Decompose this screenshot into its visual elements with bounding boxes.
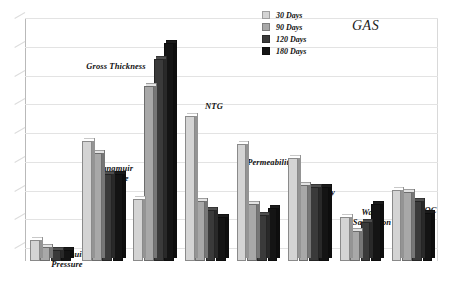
bar-top-face	[166, 40, 176, 43]
bar-top-face	[208, 207, 218, 210]
bar-top-face	[321, 184, 331, 187]
bar-side-face	[102, 150, 105, 258]
bar[interactable]	[288, 158, 298, 262]
bar-side-face	[123, 171, 126, 258]
category-label-ntg: NTG	[194, 102, 234, 112]
bar[interactable]	[237, 144, 247, 261]
bar-side-face	[370, 219, 373, 258]
bar-top-face	[115, 171, 125, 174]
legend-swatch-30-days	[262, 11, 270, 19]
bar-side-face	[360, 228, 363, 258]
legend-label-120-days: 120 Days	[276, 35, 306, 44]
legend-item-120-days[interactable]: 120 Days	[262, 33, 338, 45]
bar-top-face	[363, 219, 373, 222]
bar-side-face	[143, 196, 146, 258]
bar-group	[237, 31, 278, 261]
bar-side-face	[174, 40, 177, 259]
legend-label-90-days: 90 Days	[276, 23, 302, 32]
bar-top-face	[270, 205, 280, 208]
bar-top-face	[394, 187, 404, 190]
bar-side-face	[298, 155, 301, 259]
bar-side-face	[205, 198, 208, 258]
bar-side-face	[195, 113, 198, 258]
bar-face	[340, 217, 350, 261]
bar-top-face	[373, 201, 383, 204]
bar-side-face	[277, 205, 280, 258]
bar-side-face	[412, 189, 415, 258]
bar-side-face	[319, 184, 322, 258]
bar-top-face	[414, 198, 424, 201]
bar-side-face	[257, 201, 260, 259]
bar-top-face	[42, 244, 52, 247]
bar-side-face	[154, 83, 157, 258]
bar[interactable]	[185, 116, 195, 261]
bar[interactable]	[30, 240, 40, 261]
bar[interactable]	[392, 190, 402, 261]
bar-group	[288, 31, 329, 261]
bar-side-face	[246, 141, 249, 258]
bar-face	[392, 190, 402, 261]
bar-top-face	[135, 196, 145, 199]
bar-top-face	[32, 237, 42, 240]
legend-swatch-90-days	[262, 23, 270, 31]
bar-top-face	[218, 214, 228, 217]
bar-top-face	[311, 184, 321, 187]
bar-top-face	[342, 214, 352, 217]
bar-side-face	[164, 56, 167, 258]
bar-top-face	[404, 189, 414, 192]
plot-area: Langmuir PressureLangmuir VolumeGross Th…	[14, 18, 438, 274]
bar-side-face	[92, 138, 95, 258]
legend-item-30-days[interactable]: 30 Days	[262, 9, 338, 21]
bar-top-face	[156, 56, 166, 59]
legend-label-30-days: 30 Days	[276, 11, 302, 20]
bar-face	[133, 199, 143, 261]
bar-top-face	[63, 247, 73, 250]
bar-top-face	[146, 83, 156, 86]
bar-side-face	[215, 207, 218, 258]
bar-top-face	[301, 182, 311, 185]
bar-side-face	[40, 237, 43, 258]
bar-group	[340, 31, 381, 261]
legend-label-180-days: 180 Days	[276, 47, 306, 56]
bar[interactable]	[340, 217, 350, 261]
bar-top-face	[352, 228, 362, 231]
bar-top-face	[249, 201, 259, 204]
chart-title: GAS	[352, 18, 379, 34]
bar-side-face	[112, 171, 115, 258]
bar-top-face	[259, 212, 269, 215]
bar-side-face	[329, 184, 332, 258]
bar-face	[185, 116, 195, 261]
bar-top-face	[53, 247, 63, 250]
bar-top-face	[290, 155, 300, 158]
bar-top-face	[84, 138, 94, 141]
bar-top-face	[197, 198, 207, 201]
bar-side-face	[267, 212, 270, 258]
category-label-gross-thickness: Gross Thickness	[70, 62, 162, 72]
bar-face	[288, 158, 298, 262]
bar-group	[30, 31, 71, 261]
bar-group	[392, 31, 433, 261]
bar-face	[237, 144, 247, 261]
bar-top-face	[425, 210, 435, 213]
bar-top-face	[187, 113, 197, 116]
bar-top-face	[94, 150, 104, 153]
bar-side-face	[432, 210, 435, 258]
legend-item-180-days[interactable]: 180 Days	[262, 45, 338, 57]
bar-top-face	[104, 171, 114, 174]
bar-group	[185, 31, 226, 261]
bar-side-face	[308, 182, 311, 258]
bar-face	[30, 240, 40, 261]
legend-swatch-180-days	[262, 47, 270, 55]
legend-swatch-120-days	[262, 35, 270, 43]
bar[interactable]	[133, 199, 143, 261]
legend: 30 Days 90 Days 120 Days 180 Days	[262, 9, 338, 57]
bar-side-face	[226, 214, 229, 258]
bar[interactable]	[82, 141, 92, 261]
bar-face	[82, 141, 92, 261]
bar-side-face	[381, 201, 384, 259]
bar-side-face	[422, 198, 425, 258]
legend-item-90-days[interactable]: 90 Days	[262, 21, 338, 33]
bar-side-face	[350, 214, 353, 258]
bar-top-face	[239, 141, 249, 144]
bar-side-face	[401, 187, 404, 258]
